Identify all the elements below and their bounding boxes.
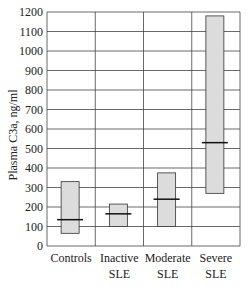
y-tick-label: 300 <box>25 181 43 195</box>
y-tick-label: 900 <box>25 64 43 78</box>
y-tick-label: 0 <box>37 239 43 253</box>
box-chart: 0100200300400500600700800900100011001200… <box>0 0 248 288</box>
box-inactive-sle <box>109 204 127 226</box>
y-tick-label: 1100 <box>19 25 43 39</box>
y-tick-label: 200 <box>25 200 43 214</box>
y-axis-label: Plasma C3a, ng/ml <box>6 89 20 181</box>
category-label-line2: SLE <box>157 267 178 281</box>
category-label-line2: SLE <box>109 267 130 281</box>
y-tick-label: 1200 <box>19 5 43 19</box>
category-label: Moderate <box>145 251 191 265</box>
category-label: Inactive <box>100 251 139 265</box>
box-controls <box>61 182 79 234</box>
y-tick-label: 100 <box>25 220 43 234</box>
y-tick-label: 1000 <box>19 44 43 58</box>
box-severe-sle <box>206 16 224 193</box>
x-axis-categories: ControlsInactiveSLEModerateSLESevereSLE <box>50 251 232 281</box>
y-tick-label: 500 <box>25 142 43 156</box>
category-label-line2: SLE <box>205 267 226 281</box>
y-tick-label: 600 <box>25 122 43 136</box>
y-tick-label: 800 <box>25 83 43 97</box>
y-tick-label: 700 <box>25 103 43 117</box>
y-axis-ticks: 0100200300400500600700800900100011001200 <box>19 5 43 253</box>
boxes <box>57 16 228 233</box>
y-tick-label: 400 <box>25 161 43 175</box>
category-label: Controls <box>50 251 92 265</box>
category-label: Severe <box>200 251 233 265</box>
